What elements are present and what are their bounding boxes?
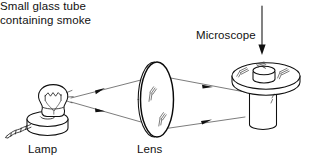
smoke-cell-diagram: Lamp Lens Microscope Small glass tube co…	[0, 0, 316, 167]
ray-lamp-lens-upper	[71, 80, 141, 98]
lens-body-ellipse	[141, 62, 174, 137]
diagram-canvas	[0, 0, 316, 167]
lens-assembly	[138, 62, 173, 137]
light-rays-lamp-to-lens	[71, 80, 141, 122]
glass-tube-upper	[253, 66, 275, 83]
label-lens: Lens	[137, 143, 162, 157]
microscope-arrow-head	[258, 45, 265, 56]
emission-mark-1	[67, 90, 73, 92]
microscope-arrow	[258, 6, 265, 55]
cord-plug-end	[5, 135, 7, 138]
label-microscope: Microscope	[196, 29, 256, 43]
ray-arrowhead-3	[202, 85, 213, 89]
ray-lamp-lens-lower	[71, 102, 141, 122]
lamp-assembly	[5, 85, 73, 138]
smoke-cell-assembly	[232, 62, 300, 130]
lamp-bulb	[39, 85, 68, 117]
bulb-glass-outline	[39, 85, 68, 117]
label-lamp: Lamp	[28, 143, 57, 157]
ray-arrowhead-1	[95, 88, 105, 94]
